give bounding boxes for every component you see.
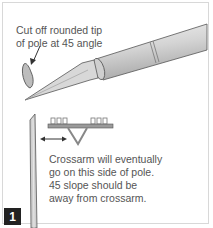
callout-top-line: of pole at 45 angle [16, 37, 102, 50]
step-number-badge: 1 [4, 208, 21, 225]
cut-tip-piece [22, 63, 33, 88]
callout-bottom-line: 45 slope should be [49, 179, 162, 192]
callout-bottom-line: Crossarm will eventually [49, 153, 162, 166]
crossarm [48, 118, 113, 144]
callout-top-line: Cut off rounded tip [16, 24, 102, 37]
callout-top: Cut off rounded tip of pole at 45 angle [16, 24, 102, 50]
callout-bottom: Crossarm will eventually go on this side… [49, 153, 162, 205]
instruction-diagram: Cut off rounded tip of pole at 45 angle … [0, 0, 213, 228]
pole-side-view [30, 114, 37, 228]
callout-bottom-line: go on this side of pole. [49, 166, 162, 179]
callout-bottom-line: away from crossarm. [49, 192, 162, 205]
double-arrow [40, 137, 67, 142]
